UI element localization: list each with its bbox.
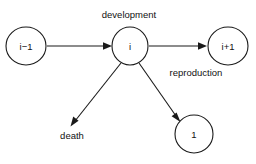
node-current[interactable]: i (112, 27, 148, 65)
edge-label-development: development (102, 9, 157, 20)
death-edge-line (75, 63, 121, 121)
edge-label-reproduction: reproduction (170, 67, 223, 78)
node-next[interactable]: i+1 (208, 27, 248, 65)
edge-label-death: death (60, 130, 84, 141)
life-cycle-diagram: i−1 i i+1 1 development reproduction dea… (0, 0, 256, 164)
edge-development (47, 42, 112, 50)
node-next-label: i+1 (222, 41, 235, 52)
node-current-label: i (129, 41, 131, 52)
reproduction-arrowhead-icon (172, 113, 181, 122)
node-newborn[interactable]: 1 (175, 115, 213, 153)
development-arrowhead-icon (103, 42, 112, 50)
growth-arrowhead-icon (198, 42, 207, 50)
node-prev[interactable]: i−1 (6, 27, 46, 65)
edge-death (71, 63, 122, 127)
edge-growth (149, 42, 207, 50)
diagram-canvas: i−1 i i+1 1 development reproduction dea… (0, 0, 256, 164)
node-newborn-label: 1 (191, 129, 196, 140)
node-prev-label: i−1 (20, 41, 33, 52)
